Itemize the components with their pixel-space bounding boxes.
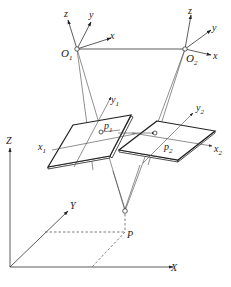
camera1-z-axis	[68, 20, 77, 49]
plane2-x-label: x2	[213, 143, 222, 157]
camera2-origin	[183, 47, 187, 51]
stereo-vision-diagram: z y x O1 z y x O2 x1 y1 p1	[0, 0, 231, 287]
world-z-label: Z	[6, 135, 12, 146]
camera2-origin-label: O2	[186, 52, 198, 67]
point-p2-marker	[153, 131, 157, 135]
world-point-label: P	[126, 229, 133, 240]
image-plane-2: x2 y2 p2	[118, 102, 222, 163]
ray-below-1	[113, 171, 125, 209]
world-point	[123, 209, 128, 214]
camera1-origin-label: O1	[61, 47, 72, 62]
camera2-y-axis	[185, 30, 211, 49]
point-to-x-line	[92, 232, 125, 267]
world-y-label: Y	[70, 200, 77, 211]
point-p1	[99, 130, 103, 134]
camera2-axes: z y x O2	[185, 5, 218, 67]
camera1-y-label: y	[88, 9, 94, 20]
camera2-z-label: z	[187, 5, 192, 16]
camera1-x-label: x	[109, 30, 115, 41]
image-plane-1: x1 y1 p1	[37, 94, 135, 169]
world-y-axis	[10, 211, 68, 267]
plane1-y-label: y1	[110, 94, 119, 108]
camera1-axes: z y x O1	[61, 8, 115, 62]
camera1-z-label: z	[63, 8, 68, 19]
world-x-label: X	[170, 262, 178, 273]
plane1-x-label: x1	[37, 141, 46, 155]
plane2-y-label: y2	[195, 102, 204, 116]
camera2-x-label: x	[212, 50, 218, 61]
camera2-z-axis	[185, 15, 191, 49]
camera2-y-label: y	[211, 22, 217, 33]
camera1-origin	[75, 47, 79, 51]
ray-below-2	[125, 165, 140, 209]
